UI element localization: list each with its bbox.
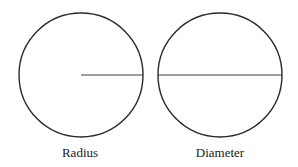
diameter-figure: Diameter: [158, 13, 282, 160]
diameter-label: Diameter: [196, 145, 245, 160]
diagram-canvas: Radius Diameter: [0, 0, 298, 167]
radius-figure: Radius: [19, 13, 143, 160]
radius-label: Radius: [62, 145, 98, 160]
